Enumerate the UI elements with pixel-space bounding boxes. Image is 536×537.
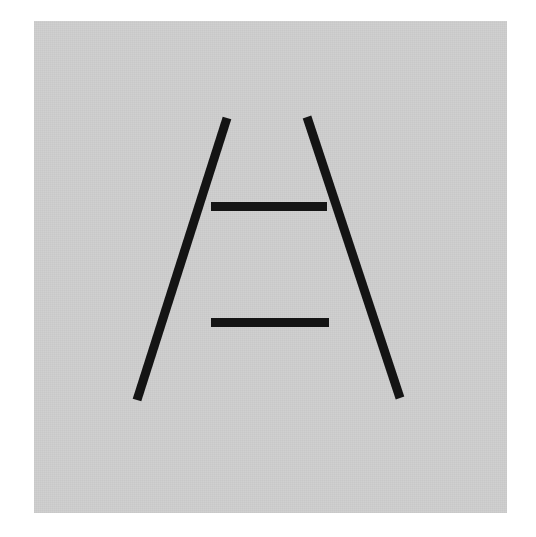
artwork-canvas: Letter A glyph artwork Minimalist hand-p…	[0, 0, 536, 537]
gray-square-panel	[34, 21, 507, 513]
lower-crossbar	[211, 318, 329, 327]
upper-crossbar	[211, 202, 327, 211]
artwork-vector-layer	[0, 0, 536, 537]
